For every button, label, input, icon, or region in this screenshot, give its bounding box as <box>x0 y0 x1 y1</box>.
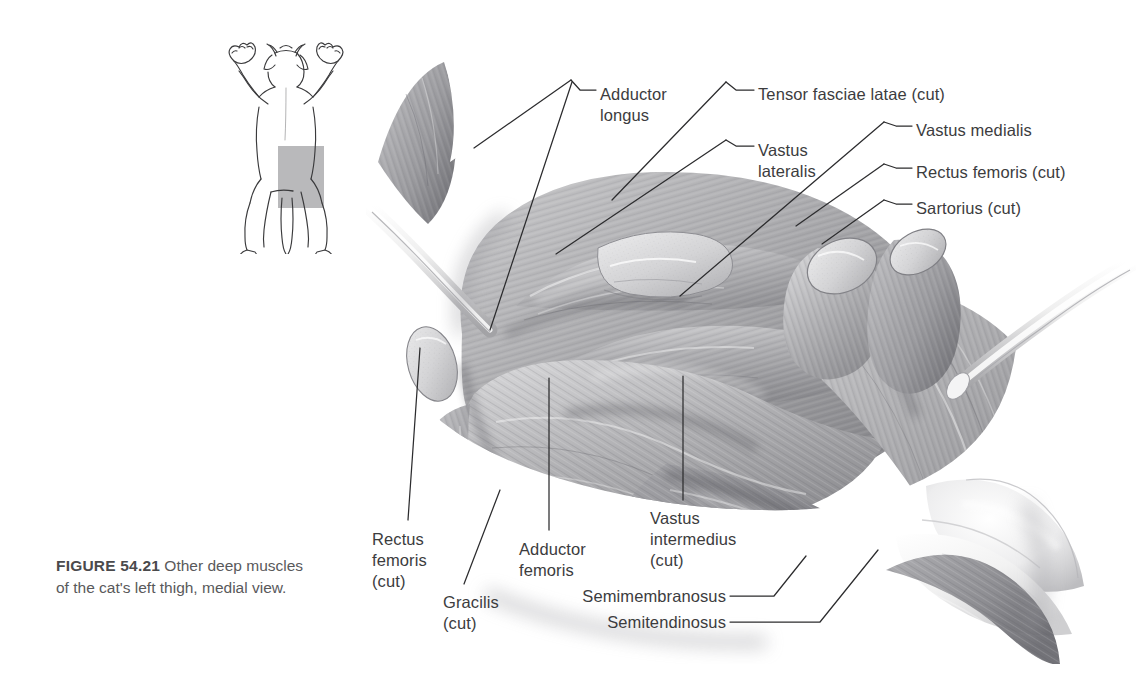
label-tensor-fasciae-latae: Tensor fasciae latae (cut) <box>758 84 945 105</box>
figure-caption: FIGURE 54.21 Other deep muscles of the c… <box>56 555 306 599</box>
label-adductor-longus: Adductor longus <box>600 84 667 126</box>
figure-root: Adductor longus Tensor fasciae latae (cu… <box>0 0 1136 685</box>
label-vastus-medialis: Vastus medialis <box>916 120 1032 141</box>
label-gracilis-cut: Gracilis (cut) <box>443 592 499 634</box>
label-adductor-femoris: Adductor femoris <box>519 539 586 581</box>
label-rectus-femoris-cut-right: Rectus femoris (cut) <box>916 162 1066 183</box>
figure-number: FIGURE 54.21 <box>56 557 160 574</box>
label-sartorius-cut: Sartorius (cut) <box>916 198 1021 219</box>
label-semitendinosus: Semitendinosus <box>526 612 726 633</box>
label-rectus-femoris-cut-left: Rectus femoris (cut) <box>372 529 427 591</box>
label-semimembranosus: Semimembranosus <box>526 586 726 607</box>
label-vastus-lateralis: Vastus lateralis <box>758 140 816 182</box>
label-vastus-intermedius: Vastus intermedius (cut) <box>650 508 736 570</box>
